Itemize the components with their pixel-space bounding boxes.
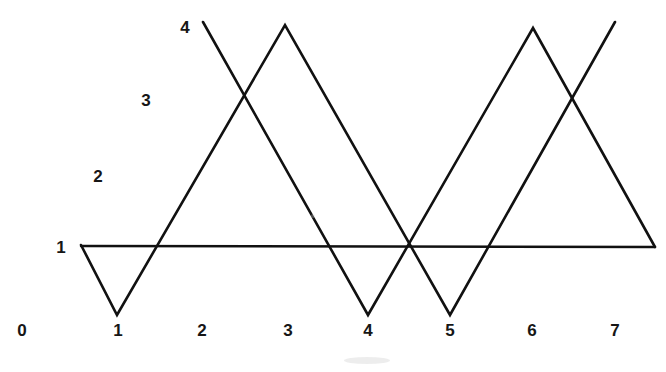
y-tick-label-2: 2 — [93, 168, 102, 185]
x-tick-label-5: 5 — [445, 322, 454, 339]
x-tick-label-0: 0 — [17, 322, 26, 339]
series-baseline — [81, 246, 655, 247]
x-tick-label-7: 7 — [610, 322, 619, 339]
x-tick-label-3: 3 — [283, 322, 292, 339]
scan-smudge — [344, 357, 390, 364]
series-zigzag-falling — [203, 22, 655, 315]
series-zigzag-rising — [81, 22, 615, 315]
x-tick-label-2: 2 — [197, 322, 206, 339]
figure-canvas: 0 1 2 3 4 5 6 7 1 2 3 4 — [0, 0, 666, 372]
y-tick-label-1: 1 — [56, 239, 65, 256]
x-tick-label-1: 1 — [113, 322, 122, 339]
scan-speck — [311, 214, 315, 218]
x-tick-label-4: 4 — [363, 322, 372, 339]
y-tick-label-3: 3 — [141, 92, 150, 109]
plot-svg — [0, 0, 666, 372]
y-tick-label-4: 4 — [180, 19, 189, 36]
x-tick-label-6: 6 — [527, 322, 536, 339]
